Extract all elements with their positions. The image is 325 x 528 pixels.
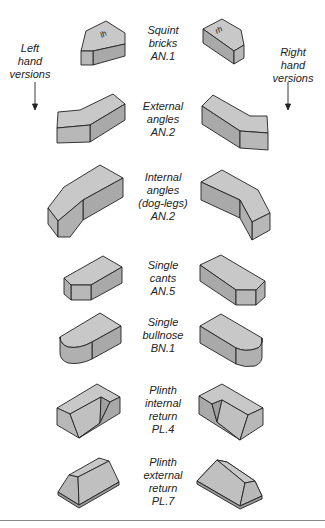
squint-brick-right [203,19,244,64]
squint-brick-left [81,21,125,65]
left-arrow-icon [33,82,38,110]
plinth-external-return-brick-left [58,458,119,508]
single-cant-brick-right [200,255,265,305]
brick-diagram: lh rh [0,0,325,528]
external-angle-brick-left [57,94,125,143]
plinth-external-return-brick-right [197,460,262,509]
plinth-internal-return-brick-right [199,384,263,440]
external-angle-brick-right [202,95,268,150]
single-bullnose-brick-left [60,313,121,364]
bottom-divider [0,520,325,521]
internal-angle-brick-right [201,170,270,240]
single-cant-brick-left [64,256,122,300]
plinth-internal-return-brick-left [57,384,120,438]
right-arrow-icon [286,82,291,110]
internal-angle-brick-left [48,165,123,237]
single-bullnose-brick-right [200,314,262,367]
